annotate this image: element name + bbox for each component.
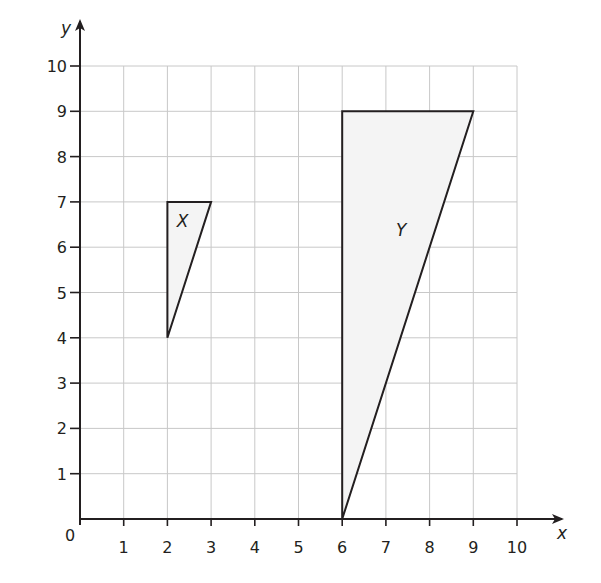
y-tick-label: 2: [57, 419, 67, 438]
tick-labels: 12345678910123456789100xy: [47, 18, 568, 557]
x-tick-label: 7: [381, 538, 391, 557]
x-tick-label: 2: [162, 538, 172, 557]
triangle-y: [342, 111, 473, 519]
x-tick-label: 10: [507, 538, 527, 557]
triangle-x: [167, 202, 211, 338]
x-axis-label: x: [556, 523, 568, 543]
y-tick-label: 10: [47, 57, 67, 76]
y-tick-label: 1: [57, 465, 67, 484]
shape-label-x: X: [176, 211, 189, 231]
y-tick-label: 5: [57, 284, 67, 303]
shape-label-y: Y: [396, 220, 408, 240]
y-axis-label: y: [60, 18, 72, 38]
shapes-layer: XY: [167, 111, 473, 519]
origin-label: 0: [65, 526, 75, 545]
y-tick-label: 8: [57, 148, 67, 167]
y-tick-label: 9: [57, 102, 67, 121]
y-tick-label: 3: [57, 374, 67, 393]
coordinate-grid-diagram: XY 12345678910123456789100xy: [0, 0, 601, 583]
y-tick-label: 7: [57, 193, 67, 212]
x-tick-label: 1: [119, 538, 129, 557]
y-tick-label: 4: [57, 329, 67, 348]
x-tick-label: 6: [337, 538, 347, 557]
x-tick-label: 4: [250, 538, 260, 557]
x-tick-label: 5: [293, 538, 303, 557]
x-tick-label: 3: [206, 538, 216, 557]
x-tick-label: 8: [425, 538, 435, 557]
axes: [70, 21, 562, 526]
x-tick-label: 9: [468, 538, 478, 557]
y-tick-label: 6: [57, 238, 67, 257]
